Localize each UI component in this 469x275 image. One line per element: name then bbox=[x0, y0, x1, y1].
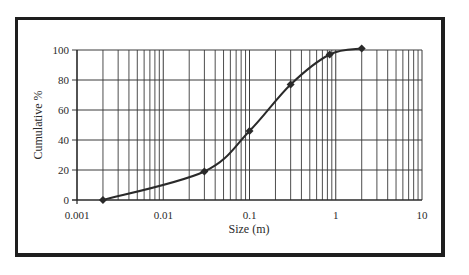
data-markers bbox=[99, 45, 366, 205]
y-axis-label: Cumulative % bbox=[31, 91, 45, 160]
y-tick-label: 100 bbox=[53, 44, 70, 56]
x-tick-label: 0.01 bbox=[154, 209, 173, 221]
x-tick-label: 0.1 bbox=[243, 209, 257, 221]
grid-lines bbox=[72, 50, 422, 200]
axes bbox=[72, 50, 422, 204]
x-tick-labels: 0.0010.010.1110 bbox=[65, 209, 428, 221]
y-tick-label: 20 bbox=[58, 164, 70, 176]
x-tick-label: 10 bbox=[417, 209, 429, 221]
y-tick-label: 80 bbox=[58, 74, 70, 86]
diamond-marker bbox=[200, 168, 208, 176]
diamond-marker bbox=[358, 45, 366, 53]
x-tick-label: 0.001 bbox=[65, 209, 90, 221]
diamond-marker bbox=[99, 196, 107, 204]
y-tick-labels: 020406080100 bbox=[53, 44, 70, 206]
x-tick-label: 1 bbox=[333, 209, 339, 221]
diamond-marker bbox=[326, 51, 334, 59]
y-tick-label: 60 bbox=[58, 104, 70, 116]
chart-plot: 020406080100 0.0010.010.1110 Size (m) Cu… bbox=[0, 0, 469, 275]
y-tick-label: 0 bbox=[64, 194, 70, 206]
y-tick-label: 40 bbox=[58, 134, 70, 146]
x-axis-label: Size (m) bbox=[229, 222, 270, 236]
data-line bbox=[103, 49, 362, 201]
